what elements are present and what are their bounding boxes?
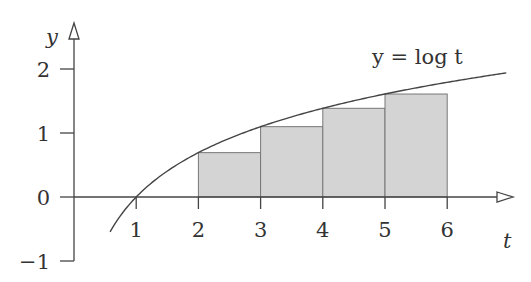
x-tick-label-2: 2 bbox=[192, 218, 205, 242]
bar-1 bbox=[198, 153, 260, 197]
x-tick-label-5: 5 bbox=[378, 218, 391, 242]
y-tick-label-0: 0 bbox=[37, 186, 50, 210]
x-axis-arrow-icon bbox=[497, 192, 513, 202]
x-tick-label-6: 6 bbox=[441, 218, 454, 242]
x-tick-label-1: 1 bbox=[130, 218, 143, 242]
y-tick-label--1: −1 bbox=[19, 250, 50, 274]
bar-2 bbox=[261, 127, 323, 197]
y-tick-label-2: 2 bbox=[37, 58, 50, 82]
x-tick-label-4: 4 bbox=[316, 218, 329, 242]
curve-label: y = log t bbox=[371, 45, 463, 69]
bar-3 bbox=[323, 108, 385, 197]
x-axis-label: t bbox=[503, 229, 512, 253]
bars-layer bbox=[198, 94, 447, 197]
y-axis-label: y bbox=[45, 25, 59, 49]
y-tick-label-1: 1 bbox=[37, 122, 50, 146]
y-axis-arrow-icon bbox=[69, 23, 79, 39]
x-tick-label-3: 3 bbox=[254, 218, 267, 242]
chart: y t y = log t 123456−1012 bbox=[0, 0, 531, 282]
bar-4 bbox=[385, 94, 447, 197]
